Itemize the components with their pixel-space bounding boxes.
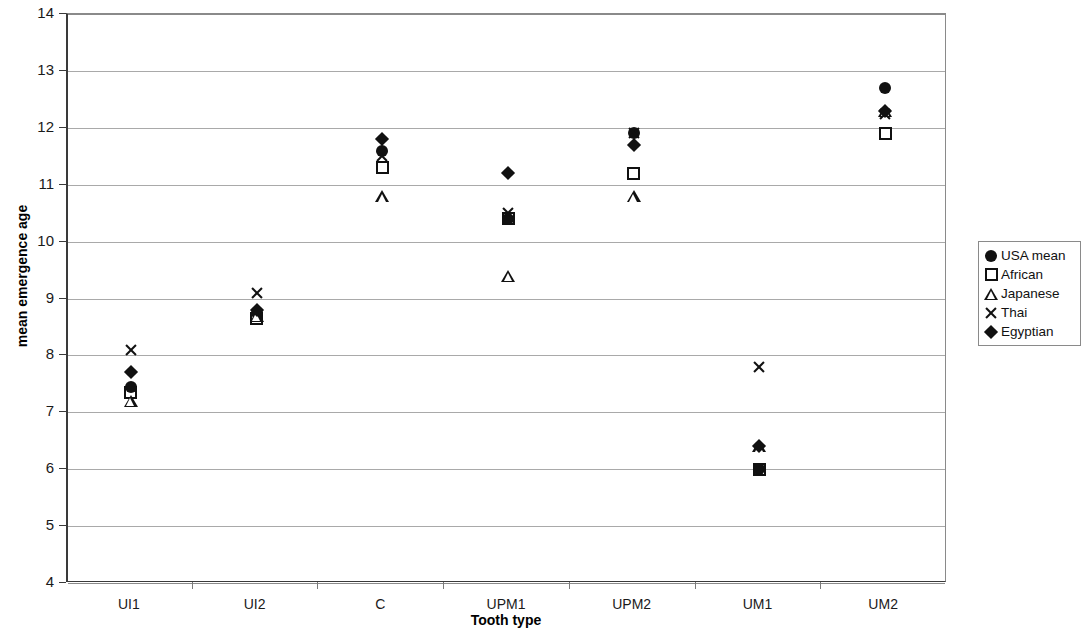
y-axis-tick-label: 11 [22, 176, 54, 191]
y-axis-tick-label: 7 [22, 403, 54, 418]
legend-key-icon [983, 286, 999, 302]
marker-open-square [879, 127, 892, 140]
y-gridline [68, 185, 945, 186]
marker-filled-diamond [501, 166, 515, 180]
y-axis-tick-mark [59, 13, 66, 14]
legend-item-label: USA mean [1001, 249, 1066, 263]
y-axis-tick-label: 9 [22, 290, 54, 305]
marker-cross-x [984, 306, 998, 320]
marker-filled-diamond [375, 132, 389, 146]
legend-item-label: Thai [1001, 306, 1027, 320]
x-axis-tick-mark [317, 582, 318, 589]
x-axis-tick-label: UPM2 [587, 597, 677, 611]
marker-filled-diamond [984, 324, 998, 338]
marker-filled-circle [125, 381, 137, 393]
y-axis-tick-label: 12 [22, 119, 54, 134]
y-gridline [68, 355, 945, 356]
y-axis-tick-mark [59, 354, 66, 355]
y-axis-tick-label: 4 [22, 574, 54, 589]
legend-key-icon [983, 267, 999, 283]
legend-item-japanese: Japanese [983, 284, 1077, 303]
legend-item-usa-mean: USA mean [983, 246, 1077, 265]
y-axis-tick-mark [59, 127, 66, 128]
x-axis-tick-label: UI1 [84, 597, 174, 611]
y-gridline [68, 242, 945, 243]
y-axis-tick-mark [59, 582, 66, 583]
y-axis-tick-label: 14 [22, 5, 54, 20]
marker-filled-circle [985, 250, 997, 262]
x-axis-tick-mark [443, 582, 444, 589]
marker-open-square [627, 167, 640, 180]
legend: USA meanAfricanJapaneseThaiEgyptian [978, 241, 1081, 346]
legend-item-thai: Thai [983, 303, 1077, 322]
y-axis-tick-mark [59, 241, 66, 242]
legend-item-label: Japanese [1001, 287, 1060, 301]
x-axis-title: Tooth type [0, 612, 1012, 628]
y-gridline [68, 469, 945, 470]
marker-cross-x [501, 206, 515, 220]
marker-open-triangle [375, 190, 389, 202]
x-axis-tick-label: UI2 [210, 597, 300, 611]
x-axis-tick-label: C [335, 597, 425, 611]
y-axis-tick-label: 8 [22, 346, 54, 361]
marker-open-triangle [627, 190, 641, 202]
marker-filled-circle [879, 82, 891, 94]
y-gridline [68, 299, 945, 300]
y-axis-tick-mark [59, 525, 66, 526]
y-gridline [68, 128, 945, 129]
y-axis-tick-label: 13 [22, 62, 54, 77]
legend-key-icon [983, 305, 999, 321]
marker-open-triangle [984, 288, 998, 300]
x-axis-tick-mark [192, 582, 193, 589]
x-axis-tick-label: UPM1 [461, 597, 551, 611]
marker-cross-x [250, 286, 264, 300]
x-axis-tick-mark [695, 582, 696, 589]
y-gridline [68, 14, 945, 15]
y-axis-tick-mark [59, 298, 66, 299]
y-axis-tick-mark [59, 70, 66, 71]
x-axis-tick-mark [569, 582, 570, 589]
y-gridline [68, 71, 945, 72]
y-gridline [68, 412, 945, 413]
legend-key-icon [983, 324, 999, 340]
y-axis-tick-label: 6 [22, 460, 54, 475]
marker-cross-x [752, 360, 766, 374]
marker-open-square [985, 268, 998, 281]
marker-open-triangle [501, 270, 515, 282]
plot-area [66, 13, 946, 582]
y-axis-tick-mark [59, 468, 66, 469]
x-axis-tick-label: UM1 [712, 597, 802, 611]
y-axis-tick-label: 5 [22, 517, 54, 532]
y-axis-tick-mark [59, 411, 66, 412]
y-gridline [68, 583, 945, 584]
legend-item-label: Egyptian [1001, 325, 1054, 339]
legend-key-icon [983, 248, 999, 264]
legend-item-african: African [983, 265, 1077, 284]
y-gridline [68, 526, 945, 527]
scatter-chart: mean emergence age Tooth type USA meanAf… [0, 0, 1083, 638]
x-axis-tick-mark [820, 582, 821, 589]
legend-item-label: African [1001, 268, 1043, 282]
marker-open-triangle [124, 395, 138, 407]
y-axis-tick-mark [59, 184, 66, 185]
legend-item-egyptian: Egyptian [983, 322, 1077, 341]
marker-filled-diamond [124, 365, 138, 379]
marker-cross-x [375, 149, 389, 163]
y-axis-tick-label: 10 [22, 233, 54, 248]
x-axis-tick-label: UM2 [838, 597, 928, 611]
marker-cross-x [124, 343, 138, 357]
